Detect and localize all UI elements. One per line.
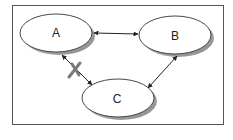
node-a-label: A [52,26,60,40]
node-c-label: C [113,92,122,106]
relationship-diagram: A B C [0,0,233,140]
node-b-label: B [171,29,179,43]
